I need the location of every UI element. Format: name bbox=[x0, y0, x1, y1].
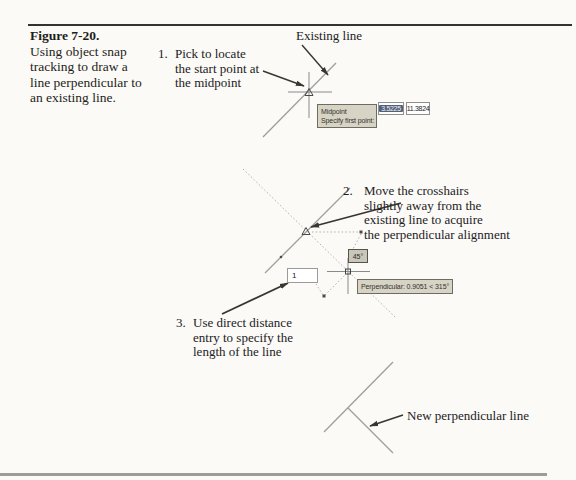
existing-line-label: Existing line bbox=[296, 28, 362, 44]
step-text: Use direct distance bbox=[193, 315, 292, 330]
input-anchor-dot bbox=[323, 295, 326, 298]
osnap-tooltip: Midpoint Specify first point: bbox=[317, 104, 377, 128]
step-text: the start point at bbox=[158, 62, 259, 77]
caption-line: an existing line. bbox=[30, 90, 190, 106]
step-number: 1. bbox=[158, 47, 175, 62]
coord-y-value: 11.3824 bbox=[407, 105, 430, 112]
step-number: 3. bbox=[176, 316, 193, 331]
step3-leader-arrow bbox=[222, 283, 288, 314]
step-text: existing line to acquire bbox=[343, 213, 510, 228]
step-text: the perpendicular alignment bbox=[343, 228, 510, 243]
step-text: the midpoint bbox=[158, 76, 259, 91]
coord-y-field: 11.3824 bbox=[406, 102, 430, 115]
existing-line-leader-arrow bbox=[302, 45, 328, 75]
step1-leader-arrow bbox=[263, 71, 304, 86]
step-1-annotation: 1.Pick to locate the start point at the … bbox=[158, 47, 259, 91]
osnap-tooltip-line1: Midpoint bbox=[321, 107, 373, 116]
step-text: entry to specify the bbox=[176, 331, 293, 346]
step-text: slightly away from the bbox=[343, 199, 510, 214]
coord-x-field: 3.5225 bbox=[378, 102, 404, 115]
step-3-annotation: 3.Use direct distance entry to specify t… bbox=[176, 316, 293, 360]
line-point-dot bbox=[280, 256, 283, 259]
osnap-tooltip-line2: Specify first point: bbox=[321, 116, 373, 125]
step-text: Move the crosshairs bbox=[364, 183, 469, 198]
coord-x-value: 3.5225 bbox=[379, 105, 403, 112]
bottom-diagram bbox=[324, 362, 403, 453]
perpendicular-tooltip: Perpendicular: 0.9051 < 315° bbox=[357, 279, 453, 294]
angle-readout: 45° bbox=[348, 249, 368, 263]
step-2-annotation: 2.Move the crosshairs slightly away from… bbox=[343, 184, 510, 242]
input-leader-dotted bbox=[316, 284, 323, 295]
input-leader-dotted bbox=[325, 274, 346, 295]
step-text: length of the line bbox=[176, 345, 293, 360]
new-line-leader-arrow bbox=[370, 415, 403, 426]
step-text: Pick to locate bbox=[175, 46, 246, 61]
new-perpendicular-line-label: New perpendicular line bbox=[407, 408, 529, 424]
figure-number: Figure 7-20. bbox=[30, 28, 190, 44]
step-number: 2. bbox=[343, 184, 364, 199]
new-perpendicular-line-segment bbox=[348, 408, 393, 453]
distance-input: 1 bbox=[287, 268, 318, 283]
